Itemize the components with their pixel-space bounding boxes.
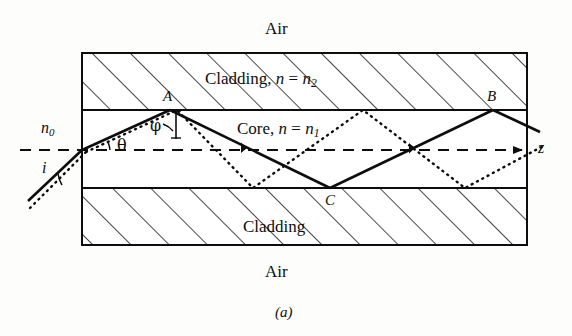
solid-ray-external (28, 150, 82, 201)
top-cladding-label: Cladding, n = n2 (205, 70, 317, 90)
core-equals: = (287, 119, 305, 138)
top-cladding-text: Cladding, (205, 69, 276, 88)
figure-optical-fiber: Air Cladding, n = n2 Core, n = n1 Claddi… (0, 0, 572, 336)
top-cladding-n2-symbol: n (302, 69, 311, 88)
point-c-label: C (325, 193, 335, 208)
figure-caption: (a) (275, 305, 293, 320)
top-cladding-n2-subscript: 2 (311, 77, 317, 90)
angle-theta-label: θ (117, 138, 127, 154)
core-text: Core, (237, 119, 279, 138)
core-n1-symbol: n (305, 119, 314, 138)
angle-phi-label: φ (150, 118, 161, 134)
core-n1-subscript: 1 (314, 127, 320, 140)
axis-z-label: z (538, 140, 544, 156)
point-a-label: A (163, 89, 172, 104)
external-index-subscript: 0 (49, 126, 54, 138)
external-index-label: n0 (41, 120, 54, 138)
angle-i-arc (58, 174, 62, 185)
dotted-ray-external (30, 152, 86, 208)
point-b-label: B (487, 89, 496, 104)
external-index-n: n (41, 119, 49, 136)
bottom-air-label: Air (265, 263, 288, 280)
core-n-symbol: n (279, 119, 288, 138)
angle-i-label: i (42, 160, 46, 176)
core-label: Core, n = n1 (237, 120, 319, 140)
fiber-diagram-svg (0, 0, 572, 336)
bottom-cladding-label: Cladding (243, 218, 305, 235)
top-air-label: Air (265, 20, 288, 37)
top-cladding-equals: = (284, 69, 302, 88)
